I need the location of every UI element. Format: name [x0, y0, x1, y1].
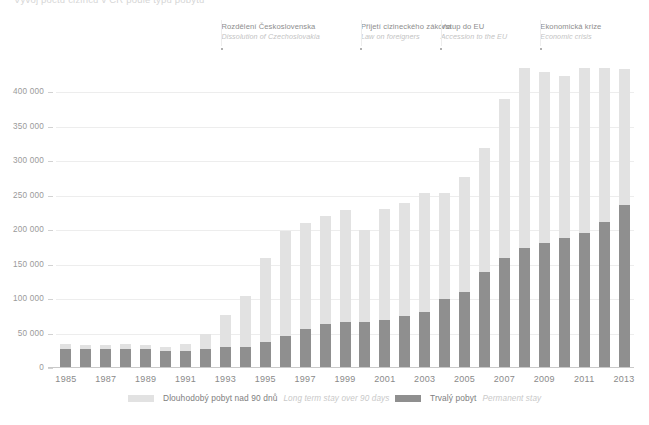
bar-segment-permanent	[599, 222, 610, 368]
annotation-label-en: Accession to the EU	[441, 32, 508, 42]
bar-group	[439, 58, 450, 368]
bar-group	[619, 58, 630, 368]
y-tick-mark	[48, 368, 53, 369]
legend-item-permanent[interactable]: Trvalý pobytPermanent stay	[395, 393, 541, 403]
chart-figure: Vývoj počtu cizinců v ČR podle typu poby…	[0, 0, 649, 425]
x-tick-label: 1987	[88, 374, 124, 384]
y-tick-mark	[48, 230, 53, 231]
y-tick-label: 300 000	[0, 156, 44, 165]
annotation-label-en: Law on foreigners	[361, 32, 451, 42]
bar-segment-long-term	[120, 344, 131, 349]
bar-segment-permanent	[80, 349, 91, 368]
bar-segment-long-term	[519, 68, 530, 248]
bar-group	[220, 58, 231, 368]
bar-group	[80, 58, 91, 368]
annotation-3: Vstup do EUAccession to the EU	[441, 22, 508, 42]
legend-label-cz: Trvalý pobyt	[430, 393, 477, 403]
bar-group	[539, 58, 550, 368]
y-tick-mark	[48, 92, 53, 93]
bar-segment-long-term	[479, 148, 490, 272]
x-tick-label: 1997	[287, 374, 323, 384]
annotation-label-cz: Vstup do EU	[441, 22, 508, 32]
bar-group	[559, 58, 570, 368]
bar-group	[280, 58, 291, 368]
y-tick-label: 250 000	[0, 191, 44, 200]
bar-segment-long-term	[359, 230, 370, 322]
annotation-1: Rozdělení ČeskoslovenskaDissolution of C…	[221, 22, 319, 42]
annotation-marker	[361, 48, 362, 49]
bar-segment-permanent	[359, 322, 370, 368]
y-tick-mark	[48, 127, 53, 128]
y-tick-mark	[48, 265, 53, 266]
bar-segment-permanent	[120, 349, 131, 368]
bar-segment-long-term	[399, 203, 410, 316]
legend-item-long_term[interactable]: Dlouhodobý pobyt nad 90 dnůLong term sta…	[128, 393, 389, 403]
annotation-marker	[441, 48, 442, 49]
annotation-rule	[361, 20, 362, 46]
bar-segment-long-term	[379, 209, 390, 320]
bar-segment-permanent	[220, 347, 231, 368]
bar-segment-permanent	[399, 316, 410, 368]
x-tick-label: 1993	[207, 374, 243, 384]
x-tick-label: 1999	[327, 374, 363, 384]
bar-group	[499, 58, 510, 368]
bar-segment-long-term	[260, 258, 271, 342]
bar-segment-long-term	[80, 345, 91, 349]
bar-segment-long-term	[619, 69, 630, 205]
bar-segment-permanent	[260, 342, 271, 368]
annotation-label-cz: Přijetí cizineckého zákona	[361, 22, 451, 32]
x-tick-label: 1989	[128, 374, 164, 384]
bar-segment-permanent	[320, 324, 331, 368]
bar-group	[100, 58, 111, 368]
bar-group	[459, 58, 470, 368]
annotation-rule	[540, 20, 541, 46]
annotation-marker	[221, 48, 222, 49]
bar-segment-permanent	[340, 322, 351, 368]
x-tick-label: 1995	[247, 374, 283, 384]
y-tick-label: 0	[0, 363, 44, 372]
bar-group	[479, 58, 490, 368]
bar-group	[599, 58, 610, 368]
bar-segment-long-term	[180, 344, 191, 351]
y-tick-mark	[48, 196, 53, 197]
bar-segment-long-term	[300, 223, 311, 329]
bar-segment-permanent	[300, 329, 311, 368]
bar-segment-long-term	[419, 193, 430, 312]
y-tick-label: 150 000	[0, 260, 44, 269]
bar-segment-permanent	[180, 351, 191, 368]
bar-segment-permanent	[579, 233, 590, 368]
bar-segment-long-term	[320, 216, 331, 323]
bar-segment-long-term	[220, 315, 231, 347]
bar-group	[379, 58, 390, 368]
bar-segment-long-term	[539, 72, 550, 244]
y-tick-label: 350 000	[0, 122, 44, 131]
bar-segment-long-term	[579, 68, 590, 233]
x-tick-label: 2003	[407, 374, 443, 384]
bar-segment-permanent	[200, 349, 211, 368]
legend-label-cz: Dlouhodobý pobyt nad 90 dnů	[163, 393, 277, 403]
bar-segment-permanent	[60, 349, 71, 368]
bar-group	[120, 58, 131, 368]
x-tick-label: 1985	[48, 374, 84, 384]
legend-label-en: Long term stay over 90 days	[283, 394, 389, 403]
bar-segment-long-term	[439, 193, 450, 299]
bar-group	[300, 58, 311, 368]
bar-group	[340, 58, 351, 368]
bar-segment-permanent	[100, 349, 111, 368]
y-tick-label: 100 000	[0, 294, 44, 303]
x-tick-label: 1991	[168, 374, 204, 384]
chart-legend: Dlouhodobý pobyt nad 90 dnůLong term sta…	[0, 393, 649, 409]
annotation-2: Přijetí cizineckého zákonaLaw on foreign…	[361, 22, 451, 42]
bar-segment-permanent	[140, 349, 151, 368]
bar-group	[320, 58, 331, 368]
bar-segment-long-term	[160, 347, 171, 352]
bar-segment-permanent	[280, 336, 291, 368]
annotation-label-en: Dissolution of Czechoslovakia	[221, 32, 319, 42]
x-tick-label: 2005	[447, 374, 483, 384]
bar-segment-permanent	[619, 205, 630, 368]
bar-segment-permanent	[559, 238, 570, 368]
annotation-marker	[540, 48, 541, 49]
bar-group	[399, 58, 410, 368]
bar-segment-permanent	[439, 299, 450, 368]
bar-group	[240, 58, 251, 368]
